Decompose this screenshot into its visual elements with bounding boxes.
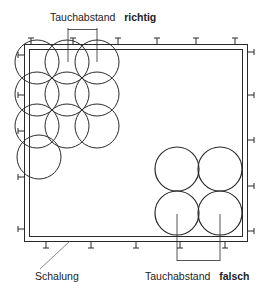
tie-markers-bottom <box>43 242 228 248</box>
dimension-wrong <box>177 214 220 261</box>
vibrator-spacing-diagram <box>0 0 271 296</box>
circles-wrong-spacing <box>155 147 242 235</box>
label-spacing-correct: Tauchabstand richtig <box>50 11 156 23</box>
formwork-leader-line <box>40 241 70 269</box>
label-wrong-emphasis: falsch <box>219 270 249 282</box>
tie-markers-right <box>248 49 254 234</box>
label-correct-emphasis: richtig <box>124 11 156 23</box>
label-formwork: Schalung <box>35 270 79 282</box>
formwork-inner <box>30 50 243 237</box>
label-spacing-wrong: Tauchabstand falsch <box>145 270 250 282</box>
circles-correct-spacing <box>15 40 119 179</box>
